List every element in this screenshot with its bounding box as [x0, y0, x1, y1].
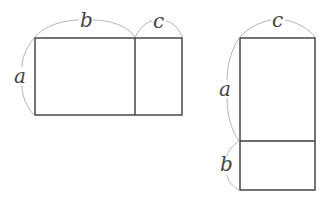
label-a: a: [14, 64, 26, 88]
right-outer-rectangle: [240, 38, 315, 190]
brace-b-left-half: [35, 20, 79, 37]
brace-b-right-half: [93, 20, 135, 37]
label-b2: b: [220, 152, 233, 176]
left-figure: b c a: [14, 8, 182, 115]
label-c2: c: [272, 8, 283, 32]
label-c: c: [153, 9, 164, 33]
label-b: b: [80, 8, 93, 32]
diagram-canvas: b c a c a b: [0, 0, 333, 199]
brace-a2-bottom-half: [227, 98, 239, 141]
brace-c2-left-half: [240, 20, 271, 37]
brace-b2-bottom-half: [227, 175, 239, 190]
brace-a-bottom-half: [22, 86, 34, 115]
brace-c-right-half: [166, 21, 182, 37]
brace-a2-top-half: [227, 38, 239, 80]
brace-c-left-half: [135, 21, 152, 37]
brace-c2-right-half: [285, 20, 315, 37]
right-figure: c a b: [219, 8, 315, 190]
label-a2: a: [219, 77, 231, 101]
brace-a-top-half: [22, 38, 34, 67]
left-outer-rectangle: [35, 38, 182, 115]
